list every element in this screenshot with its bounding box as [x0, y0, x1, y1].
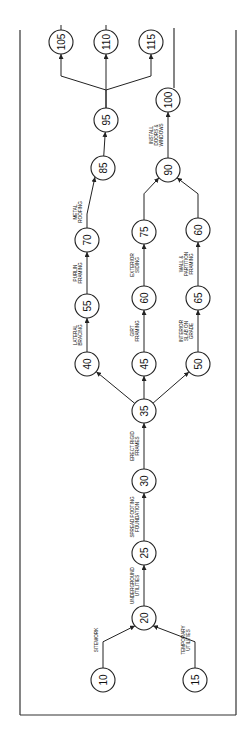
activity-label: SPREAD FOOTINGFOUNDATION: [130, 496, 140, 538]
svg-text:60: 60: [139, 292, 150, 304]
event-node-100: 100: [156, 88, 180, 112]
activity-arrow: [87, 177, 95, 228]
event-node-115: 115: [139, 30, 163, 54]
activity-labels: SITEWORKTEMPORARYUTILITIESUNDERGROUNDUTI…: [73, 123, 194, 654]
activity-label: ERECT RIGIDFRAMES: [130, 431, 140, 461]
event-node-25: 25: [132, 541, 156, 565]
svg-text:65: 65: [193, 292, 204, 304]
activity-arrow: [153, 372, 189, 403]
activity-label: UNDERGROUNDUTILITIES: [130, 566, 140, 603]
svg-text:95: 95: [101, 114, 112, 126]
event-node-95: 95: [94, 108, 118, 132]
event-node-60: 60: [132, 286, 156, 310]
event-node-35: 35: [132, 399, 156, 423]
activity-arrow: [106, 54, 151, 90]
event-node-105: 105: [49, 30, 73, 54]
svg-text:100: 100: [163, 91, 174, 108]
svg-text:110: 110: [101, 34, 112, 50]
activity-label: TEMPORARYUTILITIES: [181, 625, 191, 654]
event-node-30: 30: [132, 469, 156, 493]
event-node-50: 50: [186, 352, 210, 376]
event-node-55: 55: [75, 294, 99, 318]
svg-text:45: 45: [139, 358, 150, 370]
activity-label: EXTERIORSIDING: [130, 253, 140, 277]
svg-text:50: 50: [193, 358, 204, 370]
activity-label: PURLINFRAMING: [73, 262, 83, 284]
event-node-90: 90: [156, 158, 180, 182]
svg-text:105: 105: [56, 33, 67, 50]
event-node-75: 75: [132, 220, 156, 244]
event-node-60: 60: [186, 218, 210, 242]
event-node-70: 70: [75, 228, 99, 252]
network-diagram: SITEWORKTEMPORARYUTILITIESUNDERGROUNDUTI…: [0, 0, 249, 744]
activity-label: SITEWORK: [94, 627, 99, 652]
svg-text:25: 25: [139, 547, 150, 559]
svg-text:75: 75: [139, 226, 150, 238]
activity-arrow: [103, 626, 135, 668]
activity-arrow: [61, 54, 106, 108]
svg-text:15: 15: [190, 674, 201, 686]
svg-text:70: 70: [82, 234, 93, 246]
svg-text:115: 115: [146, 34, 157, 50]
svg-text:85: 85: [98, 162, 109, 174]
activity-label: GIRTFRAMING: [130, 320, 140, 342]
event-node-65: 65: [186, 286, 210, 310]
event-node-45: 45: [132, 352, 156, 376]
activity-label: WALL &PARTITIONFRAMING: [179, 252, 194, 276]
svg-text:10: 10: [98, 674, 109, 686]
event-node-20: 20: [132, 606, 156, 630]
event-node-85: 85: [91, 156, 115, 180]
event-node-15: 15: [183, 668, 207, 692]
activity-label: METALROOFING: [73, 201, 83, 223]
svg-text:60: 60: [193, 224, 204, 236]
activity-arrow: [144, 178, 159, 220]
svg-text:90: 90: [163, 164, 174, 176]
svg-text:30: 30: [139, 475, 150, 487]
svg-text:40: 40: [82, 358, 93, 370]
svg-text:55: 55: [82, 300, 93, 312]
svg-text:20: 20: [139, 612, 150, 624]
activity-label: INTERIORSLAB ONGRADE: [179, 319, 194, 342]
event-node-40: 40: [75, 352, 99, 376]
svg-text:35: 35: [139, 405, 150, 417]
activity-label: INSTALLDOORS &WINDOWS: [149, 123, 164, 146]
activity-arrow: [177, 178, 198, 218]
activity-arrow: [104, 132, 106, 156]
activity-label: LATERALBRACING: [73, 324, 83, 345]
event-node-10: 10: [91, 668, 115, 692]
activity-arrow: [96, 372, 134, 404]
event-node-110: 110: [94, 30, 118, 54]
